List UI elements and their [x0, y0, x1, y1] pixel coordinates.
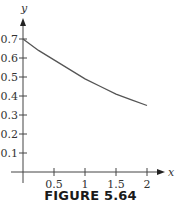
- data-curve: [23, 39, 147, 106]
- y-tick-label: 0.4: [1, 90, 19, 103]
- x-axis-arrow-icon: [157, 169, 165, 175]
- axes: [11, 18, 165, 183]
- y-tick-label: 0.2: [1, 128, 19, 141]
- x-tick-label: 0.5: [45, 178, 63, 188]
- y-tick-label: 0.5: [1, 71, 19, 84]
- y-tick-label: 0.1: [1, 147, 19, 160]
- y-axis-arrow-icon: [20, 18, 26, 26]
- x-tick-label: 1.5: [107, 178, 125, 188]
- figure-caption: FIGURE 5.64: [0, 188, 181, 203]
- y-axis-label: y: [20, 2, 28, 15]
- y-tick-label: 0.6: [1, 52, 19, 65]
- x-axis-label: x: [168, 166, 175, 179]
- chart-plot: 0.511.520.10.20.30.40.50.60.7 x y: [0, 0, 181, 188]
- y-tick-label: 0.3: [1, 109, 19, 122]
- x-tick-label: 2: [144, 178, 151, 188]
- x-tick-label: 1: [82, 178, 89, 188]
- y-tick-label: 0.7: [1, 33, 19, 46]
